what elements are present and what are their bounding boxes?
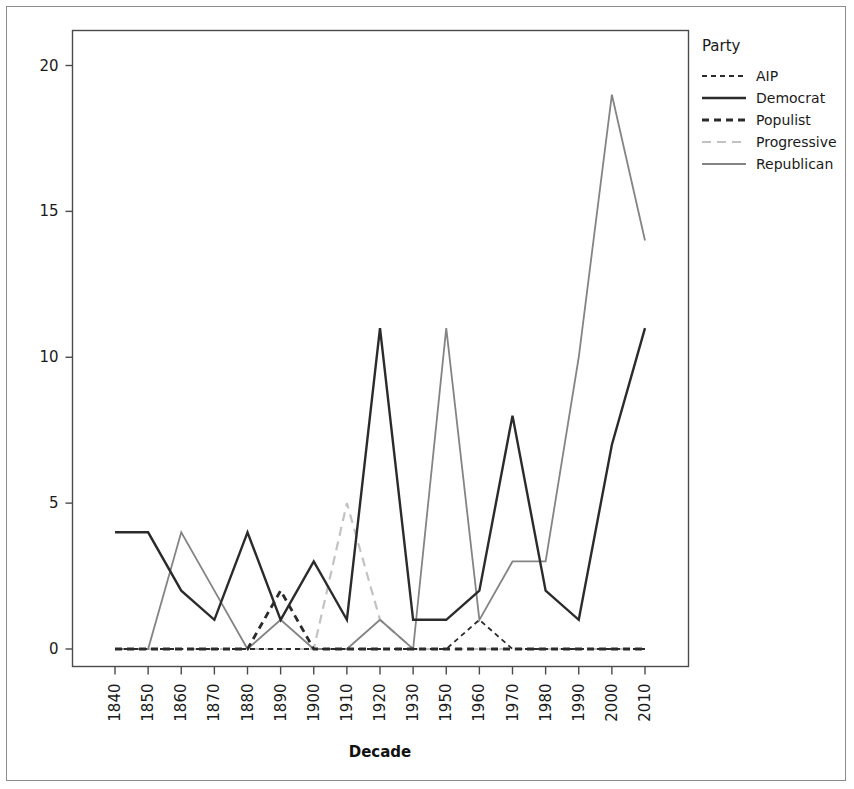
x-tick-label: 1890 <box>272 684 290 722</box>
x-tick-label: 1850 <box>139 684 157 722</box>
x-tick-label: 1860 <box>172 684 190 722</box>
x-tick-label: 1930 <box>404 684 422 722</box>
x-tick-label: 1970 <box>504 684 522 722</box>
x-tick-label: 1910 <box>338 684 356 722</box>
x-tick-label: 1960 <box>470 684 488 722</box>
legend-label-progressive: Progressive <box>756 134 837 150</box>
legend-label-aip: AIP <box>756 68 778 84</box>
line-chart: 05101520 1840185018601870188018901900191… <box>0 0 854 789</box>
y-tick-label: 10 <box>39 348 58 366</box>
x-tick-label: 1880 <box>239 684 257 722</box>
x-axis-ticks: 1840185018601870188018901900191019201930… <box>106 667 654 722</box>
y-tick-label: 15 <box>39 202 58 220</box>
x-tick-label: 2010 <box>636 684 654 722</box>
x-axis-title: Decade <box>349 743 412 761</box>
y-axis-ticks: 05101520 <box>39 57 72 658</box>
x-tick-label: 2000 <box>603 684 621 722</box>
legend-title: Party <box>702 37 741 55</box>
x-tick-label: 1990 <box>570 684 588 722</box>
legend-items: AIPDemocratPopulistProgressiveRepublican <box>702 68 837 172</box>
y-tick-label: 0 <box>49 640 59 658</box>
x-tick-label: 1980 <box>537 684 555 722</box>
legend-label-republican: Republican <box>756 156 833 172</box>
legend-label-populist: Populist <box>756 112 811 128</box>
x-tick-label: 1870 <box>205 684 223 722</box>
y-tick-label: 5 <box>49 494 59 512</box>
plot-panel <box>73 31 689 667</box>
legend: Party AIPDemocratPopulistProgressiveRepu… <box>702 37 837 172</box>
y-tick-label: 20 <box>39 57 58 75</box>
plot-svg: 05101520 1840185018601870188018901900191… <box>0 0 854 789</box>
x-tick-label: 1840 <box>106 684 124 722</box>
x-tick-label: 1900 <box>305 684 323 722</box>
x-tick-label: 1950 <box>437 684 455 722</box>
legend-label-democrat: Democrat <box>756 90 826 106</box>
chart-page: 05101520 1840185018601870188018901900191… <box>0 0 854 789</box>
x-tick-label: 1920 <box>371 684 389 722</box>
